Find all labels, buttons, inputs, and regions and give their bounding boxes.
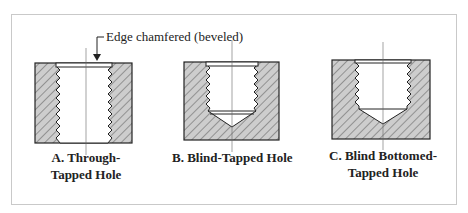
caption-b-line1: B. Blind-Tapped Hole bbox=[172, 149, 292, 166]
caption-c: C. Blind Bottomed- Tapped Hole bbox=[326, 147, 440, 181]
caption-a: A. Through- Tapped Hole bbox=[36, 149, 136, 183]
chamfer-callout-arrow bbox=[93, 37, 104, 61]
caption-a-line2: Tapped Hole bbox=[36, 166, 136, 183]
panel-b-blind-tapped-hole bbox=[184, 40, 279, 152]
caption-a-line1: A. Through- bbox=[36, 149, 136, 166]
caption-c-line2: Tapped Hole bbox=[326, 164, 440, 181]
panel-a-through-tapped-hole bbox=[35, 48, 132, 155]
caption-c-line1: C. Blind Bottomed- bbox=[326, 147, 440, 164]
panel-c-blind-bottomed-tapped-hole bbox=[332, 42, 430, 150]
chamfer-callout-label: Edge chamfered (beveled) bbox=[106, 29, 243, 45]
caption-b: B. Blind-Tapped Hole bbox=[172, 149, 292, 166]
